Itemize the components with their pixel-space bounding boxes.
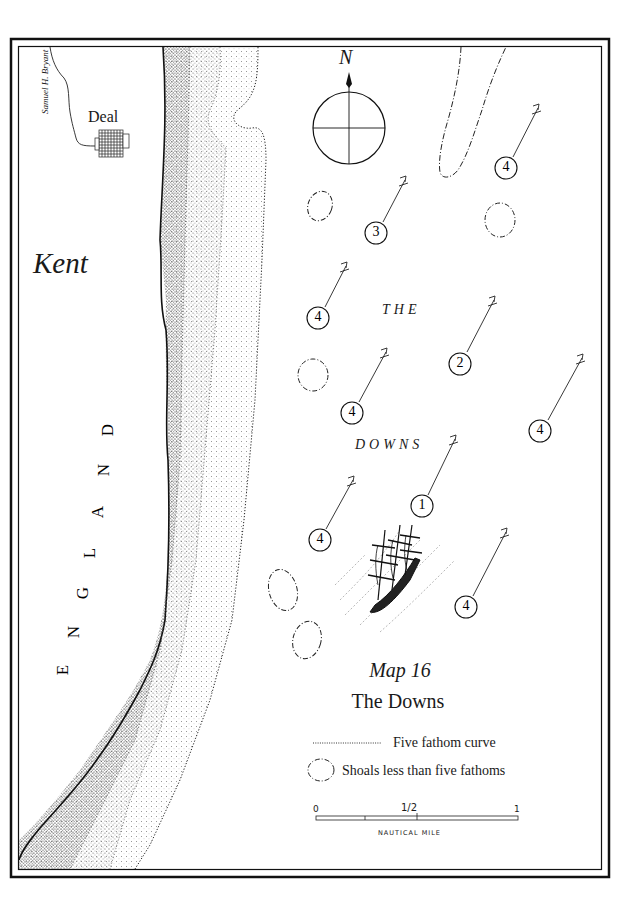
legend-shoal-icon [308,759,334,781]
anchorage-number: 4 [342,404,362,420]
map-number: Map 16 [340,659,460,682]
sea-label-downs: DOWNS [355,437,423,453]
anchorage-number: 4 [530,422,550,438]
anchorage-number: 3 [366,224,386,240]
country-letter: G [73,587,93,599]
scale-tick-half: 1/2 [401,802,417,813]
country-letter: D [98,424,118,436]
anchorage-number: 4 [308,309,328,325]
map-title: The Downs [318,690,478,713]
anchorage-number: 1 [412,497,432,513]
county-label-kent: Kent [33,247,88,280]
country-label-england: D N A L G N E [40,390,140,690]
road [50,47,95,146]
shoal-large-north [439,47,506,177]
town-deal-grid [95,130,129,157]
ship-illustration [335,525,455,632]
anchor-markers [325,104,585,596]
compass-rose [313,72,385,164]
north-label: N [339,46,352,69]
scale-tick-1: 1 [514,804,520,814]
country-letter: N [64,626,84,638]
country-letter: L [80,548,100,558]
legend-shoals-label: Shoals less than five fathoms [342,763,505,779]
anchorage-number: 4 [456,598,476,614]
artist-signature: Samuel H. Bryant [40,52,50,114]
anchorage-number: 4 [496,159,516,175]
scale-bar [316,813,518,820]
anchorage-number: 4 [310,531,330,547]
anchorage-circles [307,157,551,618]
shoals [264,188,515,662]
anchorage-number: 2 [450,355,470,371]
country-letter: E [53,665,73,675]
country-letter: A [88,506,108,518]
legend-five-fathom-label: Five fathom curve [393,735,496,751]
town-label-deal: Deal [88,108,118,126]
scale-unit-label: NAUTICAL MILE [378,829,441,837]
country-letter: N [94,464,114,476]
sea-label-the: THE [382,302,420,318]
scale-tick-0: 0 [313,804,319,814]
